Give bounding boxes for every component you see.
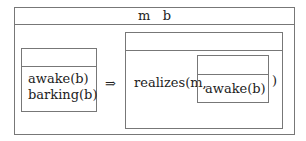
nested-box-header bbox=[198, 56, 268, 75]
right-box-header bbox=[126, 33, 282, 51]
nested-drs-box: awake(b) bbox=[197, 55, 269, 103]
left-drs-box: awake(b) barking(b) bbox=[21, 48, 97, 112]
outer-title: m b bbox=[15, 8, 294, 24]
left-condition-2: barking(b) bbox=[28, 87, 97, 103]
nested-condition: awake(b) bbox=[205, 81, 266, 97]
left-condition-1: awake(b) bbox=[28, 71, 89, 87]
left-box-header bbox=[22, 49, 96, 67]
implication-arrow: ⇒ bbox=[105, 76, 116, 92]
realizes-suffix: ) bbox=[272, 73, 277, 89]
realizes-prefix: realizes(m, bbox=[134, 75, 207, 91]
